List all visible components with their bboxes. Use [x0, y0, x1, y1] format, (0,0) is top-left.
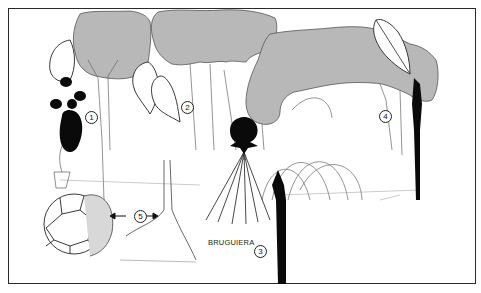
callout-4: 4: [379, 110, 392, 123]
callout-1: 1: [85, 111, 98, 124]
callout-5: 5: [134, 210, 147, 223]
propagule-4: [412, 78, 422, 200]
leaf-2b: [152, 76, 180, 122]
canopy-center: [151, 10, 276, 65]
mangrove-illustration: [0, 0, 481, 293]
fruit-bruguiera: [230, 117, 258, 154]
callout-2: 2: [181, 101, 194, 114]
fruit-1b: [74, 91, 86, 101]
species-label-bruguiera: BRUGUIERA: [208, 238, 254, 247]
propagule-1: [60, 110, 83, 152]
callout-3: 3: [254, 245, 267, 258]
canopy-right: [246, 27, 438, 125]
fruit-1a: [60, 77, 72, 87]
propagule-3: [272, 170, 286, 284]
fruit-1c: [50, 99, 62, 109]
leaf-1: [50, 40, 75, 82]
fruit-1d: [67, 99, 77, 109]
